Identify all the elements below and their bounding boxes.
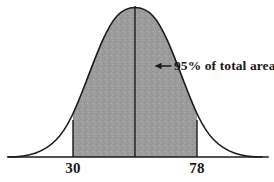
annotation-label: 95% of total area	[174, 59, 274, 73]
x-tick-label-upper-bound: 78	[183, 161, 211, 176]
normal-curve-figure: 95% of total area 30 78	[0, 0, 274, 182]
distribution-chart-svg	[0, 0, 274, 182]
x-tick-label-lower-bound: 30	[59, 161, 87, 176]
